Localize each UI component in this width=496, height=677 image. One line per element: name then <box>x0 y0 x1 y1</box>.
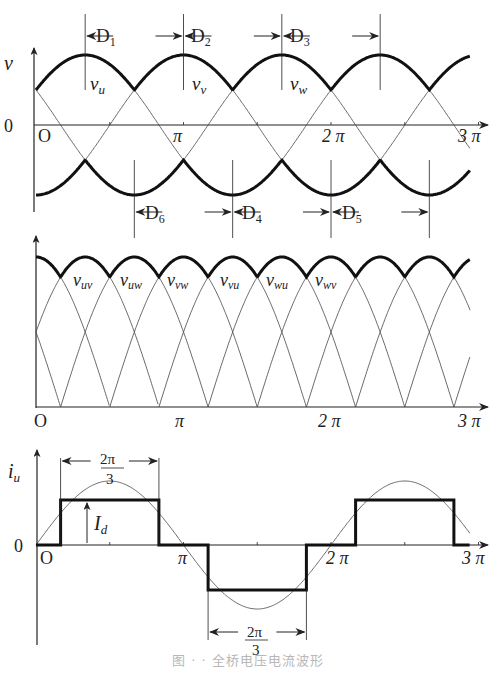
origin-label: O <box>38 126 51 146</box>
label-v-v: vv <box>192 73 206 97</box>
waveform-figure: v 0 O π 2 π 3 π vu vv vw D1 D2 D3 D6 D4 … <box>0 0 496 677</box>
width-label-top-num: 2π <box>100 451 116 467</box>
origin-label: O <box>40 548 53 568</box>
width-label-top-den: 3 <box>106 471 114 487</box>
line-voltage-arch-8 <box>356 257 471 407</box>
y-axis-label: v <box>4 52 13 74</box>
label-v-u: vu <box>90 73 105 97</box>
two-pi-label: 2 π <box>326 548 350 568</box>
label-v-w: vw <box>290 73 307 97</box>
label-v-vw: vvw <box>167 270 188 292</box>
three-pi-label: 3 π <box>457 411 482 431</box>
rectified-envelope <box>36 257 470 277</box>
current-panel-axes <box>37 450 488 645</box>
label-D3: D3 <box>290 25 310 49</box>
width-label-bottom-num: 2π <box>247 624 263 640</box>
line-voltage-curves <box>36 257 470 407</box>
label-v-uv: vuv <box>73 270 93 292</box>
label-D6: D6 <box>145 202 165 226</box>
dc-current-label: Id <box>93 512 108 537</box>
origin-label: O <box>34 411 47 431</box>
two-pi-label: 2 π <box>318 411 342 431</box>
figure-caption: 图 · · 全桥电压电流波形 <box>0 650 496 669</box>
line-voltage-arch--1 <box>36 332 60 407</box>
three-pi-label: 3 π <box>461 548 486 568</box>
two-pi-label: 2 π <box>322 126 346 146</box>
label-v-vu: vvu <box>220 270 239 292</box>
label-D5: D5 <box>342 202 362 226</box>
phase-voltage-curves <box>36 14 479 238</box>
y-axis-label: iu <box>8 460 21 485</box>
zero-label: 0 <box>4 116 13 136</box>
pi-label: π <box>175 411 185 431</box>
label-D4: D4 <box>242 202 262 226</box>
current-waveforms <box>36 458 479 640</box>
label-D1: D1 <box>96 25 116 49</box>
line-panel-axes <box>36 236 488 408</box>
label-v-wv: vwv <box>315 270 337 292</box>
zero-label: 0 <box>14 536 23 556</box>
label-v-uw: vuw <box>120 270 142 292</box>
label-D2: D2 <box>191 25 211 49</box>
pi-label: π <box>173 126 183 146</box>
line-voltage-arch-9 <box>405 260 470 407</box>
label-v-wu: vwu <box>266 270 288 292</box>
three-pi-label: 3 π <box>457 126 482 146</box>
line-voltage-arch-10 <box>454 357 470 407</box>
lower-envelope <box>36 160 470 195</box>
pi-label: π <box>178 548 188 568</box>
